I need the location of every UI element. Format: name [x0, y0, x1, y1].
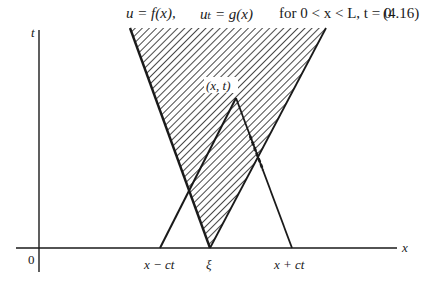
left-base-label: x − ct	[144, 258, 174, 271]
t-axis-label: t	[31, 26, 35, 39]
right-base-label: x + ct	[274, 258, 304, 271]
x-axis-label: x	[402, 241, 408, 254]
xi-label: ξ	[206, 258, 212, 271]
apex-point-label: (x, t)	[206, 79, 231, 92]
origin-label: 0	[28, 253, 35, 266]
domain-of-dependence-diagram	[0, 0, 432, 285]
